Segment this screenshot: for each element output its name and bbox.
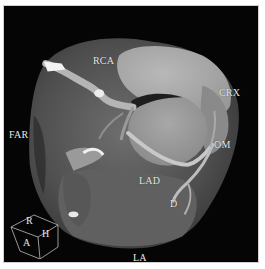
ct-image-frame: RCA CRX FAR OM LAD D LA R H A: [3, 5, 259, 263]
label-rca: RCA: [93, 56, 114, 66]
cube-wireframe-icon: [6, 209, 66, 259]
label-crx: CRX: [219, 88, 240, 98]
label-lad: LAD: [139, 176, 160, 186]
label-d: D: [170, 199, 177, 209]
label-la: LA: [133, 253, 147, 263]
cube-label-r: R: [26, 216, 33, 226]
label-far: FAR: [9, 130, 28, 140]
cube-label-h: H: [42, 229, 49, 239]
label-om: OM: [214, 140, 231, 150]
orientation-cube: R H A: [6, 209, 66, 259]
cube-label-a: A: [23, 238, 30, 248]
